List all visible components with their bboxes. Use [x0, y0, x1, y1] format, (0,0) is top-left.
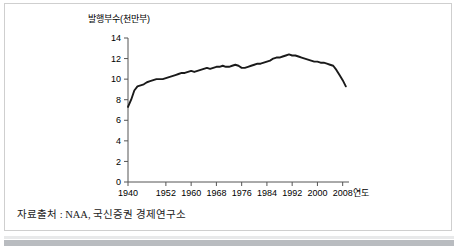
x-tick-label: 2000	[307, 188, 327, 198]
y-tick-label: 2	[116, 157, 121, 167]
y-tick-label: 0	[116, 177, 121, 187]
y-tick-label: 6	[116, 115, 121, 125]
y-tick-label: 12	[111, 54, 121, 64]
x-tick-label: 1976	[232, 188, 252, 198]
x-axis-unit-label: 연도	[353, 186, 369, 199]
window-bottom-bar	[4, 240, 454, 246]
x-tick-label: 1992	[282, 188, 302, 198]
window-bottom-shadow	[4, 236, 454, 239]
chart-axes	[128, 38, 349, 182]
circulation-line	[128, 54, 346, 106]
y-tick-label: 10	[111, 74, 121, 84]
x-tick-label: 1968	[206, 188, 226, 198]
x-tick-label: 1940	[118, 188, 138, 198]
x-tick-label: 2008	[333, 188, 353, 198]
y-tick-group: 02468101214	[111, 33, 128, 187]
line-chart-svg: 02468101214 1940195219601968197619841992…	[0, 0, 458, 212]
x-tick-label: 1984	[257, 188, 277, 198]
chart-area: 02468101214 1940195219601968197619841992…	[0, 0, 458, 212]
x-tick-label: 1952	[156, 188, 176, 198]
x-tick-label: 1960	[181, 188, 201, 198]
y-axis-title: 발행부수(천만부)	[88, 12, 150, 25]
figure-page: 02468101214 1940195219601968197619841992…	[0, 0, 458, 249]
x-tick-group: 194019521960196819761984199220002008	[118, 182, 353, 198]
y-tick-label: 4	[116, 136, 121, 146]
y-tick-label: 8	[116, 95, 121, 105]
y-tick-label: 14	[111, 33, 121, 43]
source-note: 자료출처 : NAA, 국신증권 경제연구소	[17, 206, 186, 221]
